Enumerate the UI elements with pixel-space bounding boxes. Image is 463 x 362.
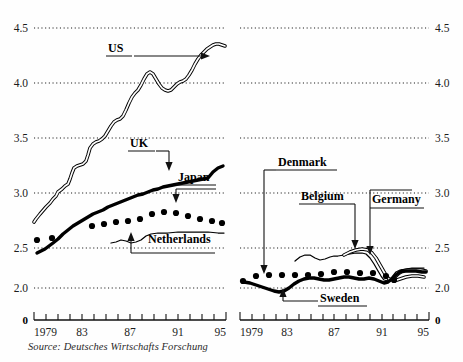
left-zero-label: 0 bbox=[23, 314, 29, 326]
japan-point bbox=[209, 218, 215, 224]
us-arrowhead-icon bbox=[201, 52, 210, 59]
y-tick-left-3: 3.0 bbox=[14, 187, 29, 199]
y-tick-right-2: 3.5 bbox=[435, 132, 450, 144]
source-note: Source: Deutsches Wirtschafts Forschung bbox=[28, 341, 208, 352]
japan-point bbox=[149, 211, 155, 217]
y-tick-right-4: 2.5 bbox=[435, 242, 450, 254]
y-tick-left-1: 4.0 bbox=[14, 77, 29, 89]
left-panel: 4.5 4.0 3.5 3.0 2.5 2.0 bbox=[14, 22, 227, 338]
annotation-uk: UK bbox=[128, 136, 173, 171]
japan-point bbox=[173, 210, 179, 216]
denmark-point bbox=[279, 272, 285, 278]
series-label-netherlands: Netherlands bbox=[148, 232, 211, 246]
right-gridlines bbox=[240, 28, 429, 288]
right-panel: 4.5 4.0 3.5 3.0 2.5 2.0 bbox=[240, 22, 450, 338]
denmark-arrowhead-icon bbox=[260, 265, 267, 274]
japan-point bbox=[219, 220, 225, 226]
x-tick-left-0: 1979 bbox=[34, 326, 57, 338]
y-tick-right-3: 3.0 bbox=[435, 187, 450, 199]
y-tick-right-5: 2.0 bbox=[435, 282, 450, 294]
denmark-point bbox=[344, 269, 350, 275]
denmark-point bbox=[391, 277, 397, 283]
annotation-us: US bbox=[106, 41, 210, 60]
x-tick-right-4: 95 bbox=[418, 326, 430, 338]
x-tick-left-2: 87 bbox=[124, 326, 136, 338]
series-label-denmark: Denmark bbox=[278, 155, 327, 169]
japan-point bbox=[113, 219, 119, 225]
japan-point bbox=[101, 221, 107, 227]
annotation-netherlands: Netherlands bbox=[127, 232, 215, 253]
denmark-point bbox=[292, 272, 298, 278]
japan-point bbox=[185, 213, 191, 219]
left-y-axis-labels: 4.5 4.0 3.5 3.0 2.5 2.0 bbox=[14, 22, 29, 294]
x-tick-right-3: 91 bbox=[376, 326, 388, 338]
japan-point bbox=[49, 235, 55, 241]
denmark-point bbox=[305, 272, 311, 278]
left-gridlines bbox=[34, 28, 226, 288]
series-label-germany: Germany bbox=[372, 192, 421, 206]
denmark-point bbox=[266, 272, 272, 278]
chart-canvas: 4.5 4.0 3.5 3.0 2.5 2.0 bbox=[0, 0, 463, 362]
left-x-axis: 0 1979 83 87 91 95 bbox=[23, 312, 227, 338]
denmark-point bbox=[318, 271, 324, 277]
right-y-axis-labels: 4.5 4.0 3.5 3.0 2.5 2.0 bbox=[435, 22, 450, 294]
series-label-us: US bbox=[108, 41, 124, 55]
x-tick-right-1: 83 bbox=[281, 326, 293, 338]
right-zero-label: 0 bbox=[435, 314, 441, 326]
annotation-belgium: Belgium bbox=[299, 189, 359, 249]
denmark-point bbox=[253, 273, 259, 279]
y-tick-left-5: 2.0 bbox=[14, 282, 29, 294]
japan-point bbox=[161, 209, 167, 215]
japan-point bbox=[137, 216, 143, 222]
denmark-point bbox=[357, 270, 363, 276]
denmark-point bbox=[370, 270, 376, 276]
y-tick-right-1: 4.0 bbox=[435, 77, 450, 89]
x-tick-right-2: 87 bbox=[328, 326, 340, 338]
series-label-japan: Japan bbox=[178, 170, 210, 184]
y-tick-left-4: 2.5 bbox=[14, 242, 29, 254]
y-tick-left-0: 4.5 bbox=[14, 22, 29, 34]
japan-point bbox=[197, 216, 203, 222]
series-us bbox=[34, 44, 225, 222]
y-tick-left-2: 3.5 bbox=[14, 132, 29, 144]
japan-point bbox=[89, 223, 95, 229]
denmark-point bbox=[331, 269, 337, 275]
annotation-denmark: Denmark bbox=[260, 155, 337, 274]
annotation-sweden: Sweden bbox=[279, 288, 367, 306]
x-tick-left-1: 83 bbox=[76, 326, 88, 338]
x-tick-right-0: 1979 bbox=[240, 326, 263, 338]
japan-arrowhead-icon bbox=[172, 194, 179, 203]
japan-point bbox=[125, 218, 131, 224]
uk-arrowhead-icon bbox=[165, 162, 172, 171]
japan-point bbox=[34, 237, 40, 243]
denmark-point bbox=[383, 273, 389, 279]
chart-figure: 4.5 4.0 3.5 3.0 2.5 2.0 bbox=[0, 0, 463, 362]
right-x-axis: 0 1979 83 87 91 95 bbox=[240, 312, 441, 338]
series-label-sweden: Sweden bbox=[320, 291, 360, 305]
series-label-belgium: Belgium bbox=[301, 189, 344, 203]
x-tick-left-3: 91 bbox=[172, 326, 184, 338]
series-label-uk: UK bbox=[130, 136, 149, 150]
belgium-arrowhead-icon bbox=[351, 240, 358, 249]
annotation-germany: Germany bbox=[366, 190, 424, 255]
x-tick-left-4: 95 bbox=[215, 326, 227, 338]
y-tick-right-0: 4.5 bbox=[435, 22, 450, 34]
denmark-point bbox=[240, 278, 246, 284]
netherlands-arrowhead-icon bbox=[127, 232, 134, 241]
